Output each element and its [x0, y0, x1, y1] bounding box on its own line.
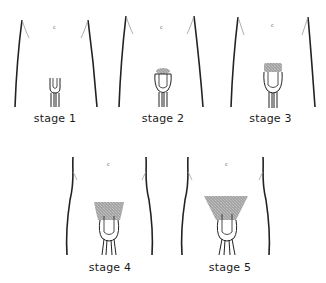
panel-stage-3: c stage 3 [215, 0, 326, 140]
stage-label: stage 4 [50, 261, 170, 274]
svg-text:c: c [225, 161, 228, 167]
svg-text:c: c [160, 24, 163, 30]
stage-label: stage 2 [108, 112, 218, 125]
panel-stage-5: c stage 5 [170, 140, 290, 283]
svg-text:c: c [107, 161, 110, 167]
svg-text:c: c [271, 22, 274, 28]
panel-stage-2: c stage 2 [108, 0, 218, 140]
stage-label: stage 1 [0, 112, 110, 125]
stage-label: stage 5 [170, 261, 290, 274]
panel-stage-4: c stage 4 [50, 140, 170, 283]
svg-text:c: c [53, 24, 56, 30]
stage-label: stage 3 [215, 112, 326, 125]
panel-stage-1: c stage 1 [0, 0, 110, 140]
